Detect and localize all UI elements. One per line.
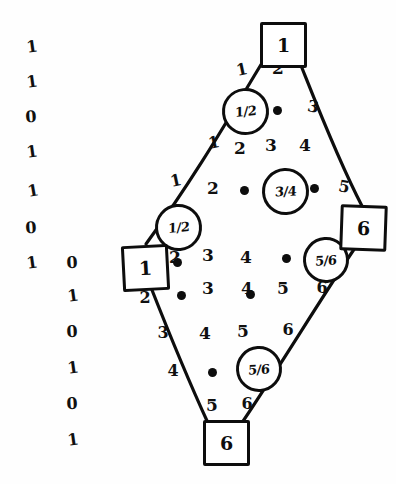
edge-top-right [300,63,362,206]
dot-r3b [310,184,319,193]
left-node[interactable]: 1 [121,244,170,292]
dot-r1 [273,106,282,115]
circle-lower-right-label: 5/6 [248,361,270,378]
circle-upper-right-label: 5/6 [315,252,337,269]
diagram-canvas: 1 1 6 6 1/2 3/4 1/2 5/6 5/6 110110101010… [0,0,396,484]
dot-r4 [173,258,182,267]
bottom-node[interactable]: 6 [203,420,250,466]
dot-r6 [208,368,217,377]
top-node[interactable]: 1 [260,22,307,68]
bottom-node-label: 6 [220,432,233,454]
circle-lower-left-label: 1/2 [168,219,190,236]
dot-r5 [177,291,186,300]
circle-upper-left-label: 1/2 [235,103,256,120]
right-node-label: 6 [356,217,370,239]
left-node-label: 1 [138,257,152,280]
top-node-label: 1 [277,34,290,56]
dot-r5b [246,290,255,299]
dot-r5c [282,254,291,263]
edge-bottom-left [150,285,208,423]
dot-r3 [240,186,249,195]
circle-center-label: 3/4 [274,183,296,199]
right-node[interactable]: 6 [339,204,388,252]
